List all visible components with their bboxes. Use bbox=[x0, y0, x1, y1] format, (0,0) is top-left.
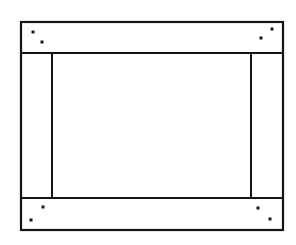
dot-top-right-outer bbox=[271, 28, 274, 31]
frame-drawing-svg bbox=[0, 0, 296, 245]
dot-bottom-left-inner bbox=[42, 206, 45, 209]
dot-top-left-outer bbox=[32, 31, 35, 34]
dot-bottom-right-outer bbox=[269, 218, 272, 221]
dot-top-right-inner bbox=[260, 37, 263, 40]
figure-canvas bbox=[0, 0, 296, 245]
dot-bottom-right-inner bbox=[257, 207, 260, 210]
dot-top-left-inner bbox=[41, 41, 44, 44]
center-panel bbox=[52, 53, 251, 198]
dot-bottom-left-outer bbox=[30, 219, 33, 222]
